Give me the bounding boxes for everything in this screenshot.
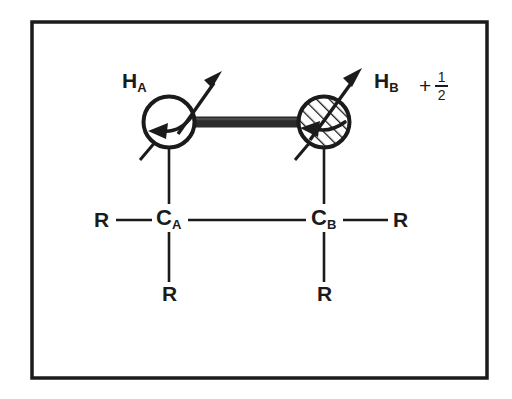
label-r-bottom-left: R [162,283,177,304]
label-h-b-subscript: B [389,80,398,95]
spin-fraction: 1 2 [435,70,448,102]
spin-sign: + [419,74,431,98]
label-h-a: HA [122,70,147,91]
label-c-b-subscript: B [327,217,336,232]
spin-denominator: 2 [436,87,448,102]
coupling-bond-bar-highlight [190,118,302,120]
label-h-b-element: H [374,69,389,92]
label-c-b-element: C [311,205,327,230]
label-c-a: CA [156,207,181,229]
label-r-right: R [393,209,408,230]
spin-quantum-number: + 1 2 [419,70,448,102]
label-r-bottom-right: R [317,283,332,304]
proton-a-group [140,71,222,160]
label-h-b: HB [374,70,399,91]
label-c-a-subscript: A [172,217,181,232]
proton-b-group [295,68,362,160]
spin-numerator: 1 [436,70,448,85]
figure-canvas: HA HB + 1 2 CA CB R R R R [0,0,512,399]
label-r-left: R [94,209,109,230]
label-c-a-element: C [156,205,172,230]
spin-coupling-diagram [0,0,512,399]
label-h-a-element: H [122,69,137,92]
label-h-a-subscript: A [137,80,146,95]
label-c-b: CB [311,207,336,229]
